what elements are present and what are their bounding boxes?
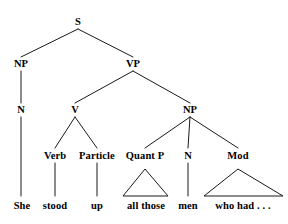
leaf-up: up (91, 201, 103, 212)
leaf-stood: stood (43, 201, 67, 212)
node-verb: Verb (44, 151, 66, 162)
np-object-to-mod (190, 117, 238, 148)
v-to-verb (55, 117, 75, 148)
leaf-men: men (178, 201, 198, 212)
leaf-who-had: who had . . . (215, 201, 270, 212)
np-object-to-n (188, 117, 190, 148)
node-mod: Mod (227, 151, 248, 162)
vp-to-np-object (133, 71, 190, 103)
s-to-vp (78, 29, 133, 57)
node-np-object: NP (183, 105, 197, 116)
v-to-particle (75, 117, 97, 148)
node-n-object: N (184, 151, 192, 162)
node-vp: VP (126, 59, 140, 70)
np-object-to-quant-p (145, 117, 190, 148)
vp-to-v (75, 71, 133, 103)
quant-p-triangle (123, 169, 168, 196)
syntax-tree-figure: S NP VP N V NP Verb Particle Quant P N M… (0, 0, 288, 224)
node-v: V (71, 105, 79, 116)
leaf-all-those: all those (127, 201, 165, 212)
mod-triangle (204, 169, 283, 196)
s-to-np-subject (21, 29, 78, 57)
node-particle: Particle (79, 151, 115, 162)
tree-lines-svg (0, 0, 288, 224)
node-n-subject: N (17, 105, 25, 116)
leaf-she: She (14, 201, 31, 212)
node-np-subject: NP (14, 59, 28, 70)
tree-triangles (123, 169, 283, 196)
tree-edges (21, 29, 238, 196)
node-quant-p: Quant P (126, 151, 164, 162)
node-s: S (75, 17, 81, 28)
